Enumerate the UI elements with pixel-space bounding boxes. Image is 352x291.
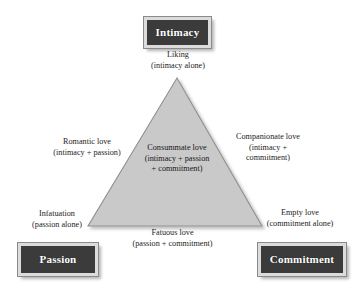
label-empty-love: Empty love (commitment alone): [248, 208, 352, 229]
label-liking-line2: (intimacy alone): [145, 61, 211, 72]
label-fatuous-love: Fatuous love (passion + commitment): [106, 228, 239, 249]
label-fatuous-line2: (passion + commitment): [106, 239, 239, 250]
vertex-label-commitment: Commitment: [270, 254, 334, 265]
label-infatuation-line1: Infatuation: [39, 209, 75, 218]
label-fatuous-line1: Fatuous love: [151, 228, 193, 237]
label-romantic-line1: Romantic love: [63, 137, 111, 146]
label-consummate-line1: Consummate love: [147, 143, 206, 152]
label-liking-line1: Liking: [167, 50, 189, 59]
label-consummate-love: Consummate love (intimacy + passion + co…: [122, 143, 232, 175]
vertex-label-passion: Passion: [40, 254, 77, 265]
label-consummate-line2: (intimacy + passion: [122, 154, 232, 165]
label-consummate-line3: + commitment): [122, 164, 232, 175]
label-liking: Liking (intimacy alone): [145, 50, 211, 71]
label-empty-line2: (commitment alone): [248, 219, 352, 230]
label-infatuation-line2: (passion alone): [8, 220, 106, 231]
label-empty-line1: Empty love: [281, 208, 319, 217]
vertex-box-passion[interactable]: Passion: [18, 243, 98, 276]
vertex-box-intimacy[interactable]: Intimacy: [144, 17, 211, 48]
label-companionate-line1: Companionate love: [236, 132, 300, 141]
vertex-box-commitment[interactable]: Commitment: [258, 243, 346, 276]
triangular-theory-of-love-diagram: Intimacy Passion Commitment Liking (inti…: [0, 0, 352, 291]
label-infatuation: Infatuation (passion alone): [8, 209, 106, 230]
vertex-label-intimacy: Intimacy: [156, 27, 200, 38]
